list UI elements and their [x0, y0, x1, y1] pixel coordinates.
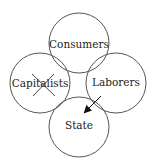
laborers-label: Laborers — [92, 76, 140, 88]
capitalists-label: Capitalists — [12, 77, 69, 89]
venn-diagram: Consumers Capitalists Laborers State — [0, 0, 156, 166]
consumers-label: Consumers — [49, 38, 109, 50]
state-label: State — [65, 119, 93, 131]
